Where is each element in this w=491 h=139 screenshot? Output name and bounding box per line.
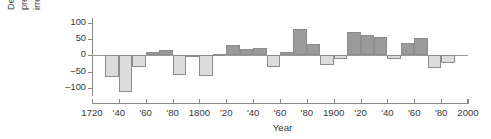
y-tick-mark bbox=[88, 88, 92, 89]
x-tick-label-7: '60 bbox=[274, 107, 287, 118]
y-axis-title-line-1: Decade average annual bbox=[6, 0, 16, 10]
x-tick-label-8: '80 bbox=[301, 107, 314, 118]
bar-1800s bbox=[199, 55, 212, 75]
bar-1730s bbox=[105, 55, 118, 76]
bar-1900s bbox=[334, 55, 347, 59]
bar-1910s bbox=[347, 32, 360, 55]
bar-1790s bbox=[186, 55, 199, 57]
y-tick-label: 50 bbox=[76, 34, 86, 43]
x-tick-label-9: 1900 bbox=[323, 107, 344, 118]
x-axis-title-text: Year bbox=[273, 122, 292, 133]
x-tick-label-4: 1800 bbox=[189, 107, 210, 118]
bar-1890s bbox=[320, 55, 333, 64]
x-tick-label-6: '40 bbox=[247, 107, 260, 118]
bar-1930s bbox=[374, 37, 387, 55]
x-tick-mark-6 bbox=[253, 99, 254, 104]
x-tick-mark-4 bbox=[199, 99, 200, 104]
x-tick-mark-5 bbox=[226, 99, 227, 104]
y-tick-mark bbox=[88, 39, 92, 40]
bar-1770s bbox=[159, 50, 172, 56]
zero-baseline bbox=[92, 55, 468, 56]
bar-1880s bbox=[307, 44, 320, 55]
x-tick-label-0: 1720 bbox=[81, 107, 102, 118]
y-tick-label: –50 bbox=[70, 67, 86, 76]
y-axis-title-line-3: irregularities (mm) bbox=[32, 0, 42, 10]
x-tick-label-11: '40 bbox=[381, 107, 394, 118]
x-tick-mark-14 bbox=[468, 99, 469, 104]
y-tick-mark bbox=[88, 23, 92, 24]
x-tick-mark-3 bbox=[173, 99, 174, 104]
x-tick-mark-12 bbox=[414, 99, 415, 104]
y-tick-label: 100 bbox=[70, 18, 86, 27]
y-axis-line bbox=[92, 18, 93, 96]
bar-1810s bbox=[213, 54, 226, 56]
bar-1940s bbox=[387, 55, 400, 59]
x-axis-title: Year bbox=[0, 122, 491, 133]
y-tick-label: 0 bbox=[81, 51, 86, 60]
y-tick-label: –100 bbox=[65, 83, 86, 92]
x-tick-label-12: '60 bbox=[408, 107, 421, 118]
x-tick-label-10: '20 bbox=[354, 107, 367, 118]
bar-1970s bbox=[428, 55, 441, 68]
x-tick-label-2: '60 bbox=[139, 107, 152, 118]
x-tick-mark-1 bbox=[119, 99, 120, 104]
bar-1830s bbox=[240, 49, 253, 56]
bar-1950s bbox=[401, 43, 414, 55]
x-tick-label-1: '40 bbox=[113, 107, 126, 118]
x-tick-mark-9 bbox=[334, 99, 335, 104]
x-tick-label-3: '80 bbox=[166, 107, 179, 118]
x-tick-mark-10 bbox=[361, 99, 362, 104]
x-tick-label-5: '20 bbox=[220, 107, 233, 118]
x-tick-mark-11 bbox=[387, 99, 388, 104]
bar-1860s bbox=[280, 52, 293, 55]
bar-1820s bbox=[226, 45, 239, 55]
bar-1760s bbox=[146, 52, 159, 55]
x-tick-label-13: '80 bbox=[435, 107, 448, 118]
precipitation-irregularities-chart: Decade average annual precipitation irre… bbox=[0, 0, 491, 139]
bar-1850s bbox=[267, 55, 280, 66]
bar-1840s bbox=[253, 48, 266, 56]
y-tick-mark bbox=[88, 72, 92, 73]
bar-1740s bbox=[119, 55, 132, 91]
x-tick-label-14: 2000 bbox=[457, 107, 478, 118]
bar-1870s bbox=[293, 29, 306, 55]
bar-1750s bbox=[132, 55, 145, 67]
x-tick-mark-7 bbox=[280, 99, 281, 104]
x-tick-mark-8 bbox=[307, 99, 308, 104]
bar-1980s bbox=[441, 55, 454, 63]
bar-1960s bbox=[414, 38, 427, 55]
y-axis-title-line-2: precipitation bbox=[19, 0, 29, 10]
x-tick-mark-0 bbox=[92, 99, 93, 104]
bar-1780s bbox=[173, 55, 186, 75]
bar-1920s bbox=[361, 35, 374, 55]
plot-area: 100500–50–100 bbox=[92, 18, 468, 96]
x-tick-mark-13 bbox=[441, 99, 442, 104]
x-tick-mark-2 bbox=[146, 99, 147, 104]
